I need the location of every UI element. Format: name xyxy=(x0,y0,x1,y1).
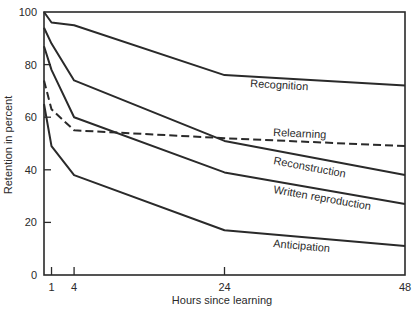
x-axis-label: Hours since learning xyxy=(172,294,272,306)
x-tick-label: 4 xyxy=(71,281,77,293)
y-tick-label: 20 xyxy=(25,216,37,228)
series-label: Recognition xyxy=(250,77,309,92)
y-tick-label: 0 xyxy=(31,269,37,281)
y-axis-label: Retention in percent xyxy=(2,96,14,194)
y-tick-label: 60 xyxy=(25,111,37,123)
x-axis: 142448 xyxy=(48,267,411,293)
y-tick-label: 100 xyxy=(19,6,37,18)
retention-chart: 020406080100 142448 RecognitionRelearnin… xyxy=(0,0,413,311)
series-line-reconstruction xyxy=(44,28,405,175)
series-label: Written reproduction xyxy=(273,183,372,212)
series-line-recognition xyxy=(44,12,405,86)
series-lines xyxy=(44,12,405,246)
y-axis: 020406080100 xyxy=(19,6,51,281)
series-label: Relearning xyxy=(273,126,327,140)
y-tick-label: 80 xyxy=(25,59,37,71)
x-tick-label: 48 xyxy=(399,281,411,293)
x-tick-label: 24 xyxy=(218,281,230,293)
y-tick-label: 40 xyxy=(25,164,37,176)
x-tick-label: 1 xyxy=(48,281,54,293)
series-line-written-reproduction xyxy=(44,46,405,204)
